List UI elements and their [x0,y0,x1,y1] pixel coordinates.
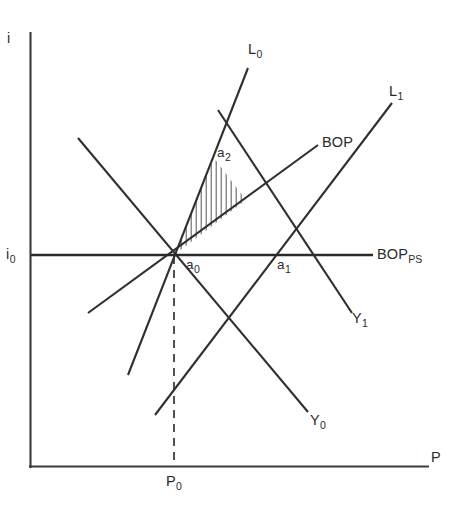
point-label-a0: a0 [186,258,199,272]
curve-label-Y0-base: Y [310,412,320,428]
x-tick-p0: P0 [166,474,182,489]
curve-label-BOP-base: BOP [322,134,353,150]
point-label-a1: a1 [277,258,290,272]
curve-label-BOP: BOP [322,135,353,150]
axis-group [30,33,428,467]
curve-L0 [128,68,248,375]
point-label-a1-subscript: 1 [285,263,291,275]
point-label-a1-base: a [277,257,285,272]
x-axis-label: P [431,450,441,465]
curve-label-L0-base: L [248,41,256,57]
curve-label-BOP-PS: BOPPS [377,247,422,262]
point-label-a2-base: a [217,145,225,160]
curve-label-L1: L1 [389,84,403,99]
x-tick-subscript: 0 [176,480,182,492]
curve-label-L1-subscript: 1 [397,90,403,102]
curve-label-L1-base: L [389,83,397,99]
figure-root: i P i0 P0 L0 L1 BOP BOPPS Y0 Y1 a0 a1 a2 [0,0,469,519]
curve-label-Y1-subscript: 1 [362,317,368,329]
curve-label-Y1: Y1 [352,311,368,326]
curve-label-Y0: Y0 [310,413,326,428]
y-tick-subscript: 0 [10,253,16,265]
curve-label-BOP-PS-subscript: PS [408,253,422,265]
curve-label-BOP-PS-base: BOP [377,246,408,262]
curve-Y0 [78,138,308,412]
curve-label-L0-subscript: 0 [256,48,262,60]
curve-label-Y0-subscript: 0 [320,419,326,431]
curve-label-Y1-base: Y [352,310,362,326]
curve-label-L0: L0 [248,42,262,57]
point-label-a2-subscript: 2 [225,151,231,163]
y-tick-i0: i0 [6,247,15,262]
y-axis-label: i [7,31,10,46]
point-label-a0-subscript: 0 [194,263,200,275]
reference-lines [32,255,174,466]
curve-group [31,68,392,415]
y-tick-base: i [6,246,9,262]
point-label-a0-base: a [186,257,194,272]
point-label-a2: a2 [217,146,230,160]
x-tick-base: P [166,473,176,489]
